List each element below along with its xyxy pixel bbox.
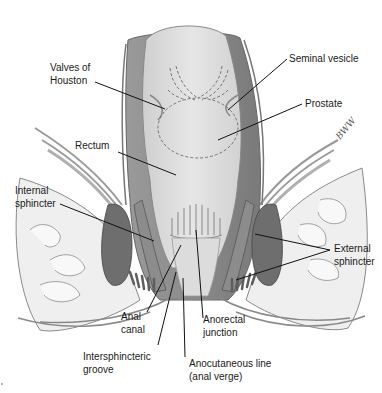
stray-dot [1, 383, 3, 385]
artist-signature: BWW [333, 115, 358, 142]
label-seminal-vesicle: Seminal vesicle [289, 52, 358, 65]
label-valves-of-houston: Valves of Houston [50, 61, 90, 87]
label-prostate: Prostate [305, 97, 342, 110]
label-external-sphincter: External sphincter [334, 242, 375, 268]
label-anal-canal: Anal canal [121, 310, 145, 336]
label-anorectal-junction: Anorectal junction [203, 313, 245, 339]
label-intersphincteric-groove: Intersphincteric groove [83, 350, 151, 376]
label-rectum: Rectum [75, 139, 109, 152]
label-internal-sphincter: Internal sphincter [15, 184, 56, 210]
label-anocutaneous-line: Anocutaneous line (anal verge) [189, 357, 271, 383]
